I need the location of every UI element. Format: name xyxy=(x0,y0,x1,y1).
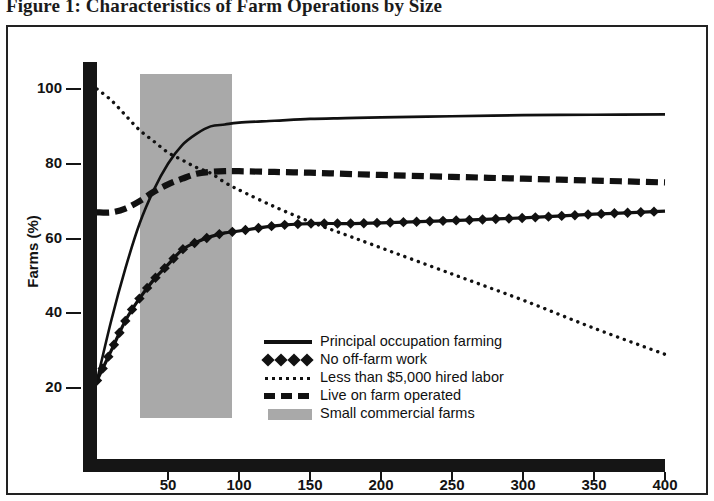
legend-item-live-on-farm-operated: Live on farm operated xyxy=(262,387,562,405)
y-tick-label: 80 xyxy=(20,154,62,171)
x-tick-label: 50 xyxy=(143,476,193,493)
y-axis-line xyxy=(83,62,97,459)
y-tick xyxy=(66,387,81,389)
dashed-line-marker xyxy=(262,387,314,405)
legend-item-principal-occupation-farming: Principal occupation farming xyxy=(262,333,562,351)
legend-label: Principal occupation farming xyxy=(320,333,502,349)
legend-label: Less than $5,000 hired labor xyxy=(320,369,504,385)
y-tick-label: 40 xyxy=(20,303,62,320)
y-tick xyxy=(66,238,81,240)
x-tick-label: 150 xyxy=(285,476,335,493)
chart-series-layer xyxy=(0,0,714,501)
x-tick-label: 400 xyxy=(640,476,690,493)
x-tick-label: 100 xyxy=(214,476,264,493)
y-tick-label: 20 xyxy=(20,378,62,395)
x-tick-label: 200 xyxy=(356,476,406,493)
diamond-line-marker xyxy=(262,351,314,369)
chart-plot-area: Farms (%) 20406080100 501001502002503003… xyxy=(0,0,714,501)
solid-line-marker xyxy=(262,333,314,351)
legend-item-less-than-5000-hired-labor: Less than $5,000 hired labor xyxy=(262,369,562,387)
y-tick xyxy=(66,163,81,165)
legend-label: Live on farm operated xyxy=(320,387,461,403)
y-axis-label: Farms (%) xyxy=(24,192,41,312)
legend-item-small-commercial-farms: Small commercial farms xyxy=(262,405,562,423)
x-tick-label: 250 xyxy=(427,476,477,493)
y-tick-label: 100 xyxy=(20,79,62,96)
x-tick-label: 350 xyxy=(569,476,619,493)
y-tick xyxy=(66,312,81,314)
x-axis-line xyxy=(83,459,665,472)
legend-item-no-off-farm-work: No off-farm work xyxy=(262,351,562,369)
y-tick xyxy=(66,88,81,90)
legend-label: No off-farm work xyxy=(320,351,427,367)
legend-label: Small commercial farms xyxy=(320,405,475,421)
x-tick-label: 300 xyxy=(498,476,548,493)
dotted-line-marker xyxy=(262,369,314,387)
live-on-farm-operated-series xyxy=(97,171,665,212)
y-tick-label: 60 xyxy=(20,229,62,246)
chart-legend: Principal occupation farming No off-farm… xyxy=(262,333,562,423)
gray-swatch-marker xyxy=(262,405,314,423)
